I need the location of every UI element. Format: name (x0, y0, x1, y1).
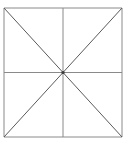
center-vertex (61, 71, 64, 74)
geometric-figure (0, 0, 125, 161)
figure-canvas (0, 0, 125, 161)
